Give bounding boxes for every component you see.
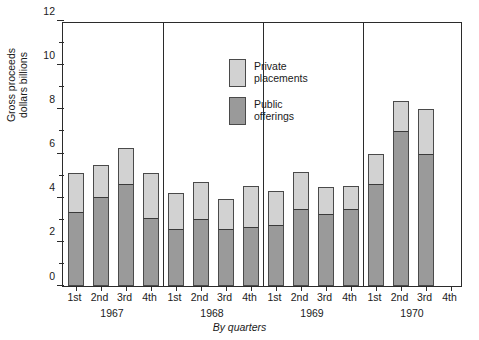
bar-1968-4th [243, 186, 259, 286]
chart-figure: Gross proceeds dollars billions 02468101… [0, 0, 479, 340]
bar-segment-public [418, 154, 434, 287]
legend-item-private: Private placements [229, 59, 308, 87]
bar-1970-2nd [393, 101, 409, 287]
bar-segment-private [168, 193, 184, 228]
bar-segment-public [143, 218, 159, 286]
bar-segment-public [168, 229, 184, 286]
x-quarter-label: 2nd [191, 292, 209, 303]
bar-1968-1st [168, 193, 184, 286]
bar-1968-3rd [218, 199, 234, 286]
bar-segment-private [368, 154, 384, 185]
y-tick-major [57, 20, 64, 21]
x-year-label-1970: 1970 [400, 308, 423, 319]
legend-label-public: Public offerings [254, 97, 294, 122]
y-axis-title: Gross proceeds dollars billions [6, 15, 29, 155]
bar-segment-private [268, 191, 284, 225]
bar-1969-1st [268, 191, 284, 286]
x-year-label-1968: 1968 [200, 308, 223, 319]
x-quarter-label: 2nd [91, 292, 109, 303]
x-quarter-label: 1st [267, 292, 281, 303]
x-axis-title: By quarters [0, 322, 479, 333]
bar-1969-3rd [318, 187, 334, 286]
bar-segment-public [218, 229, 234, 286]
bar-1969-4th [343, 186, 359, 286]
y-tick-label: 0 [49, 270, 55, 281]
x-quarter-label: 3rd [217, 292, 232, 303]
bar-1968-2nd [193, 182, 209, 286]
y-tick-label: 6 [49, 138, 55, 149]
bar-segment-private [93, 165, 109, 197]
x-quarter-label: 3rd [317, 292, 332, 303]
bar-segment-public [393, 131, 409, 286]
bar-segment-public [68, 212, 84, 286]
bar-segment-private [218, 199, 234, 229]
bar-1967-1st [68, 173, 84, 286]
bar-segment-public [193, 219, 209, 286]
bar-segment-public [93, 197, 109, 286]
bar-1967-2nd [93, 165, 109, 286]
bar-segment-public [118, 184, 134, 286]
bar-segment-public [318, 214, 334, 286]
x-quarter-label: 2nd [291, 292, 309, 303]
legend-swatch-private-icon [229, 59, 246, 87]
x-quarter-label: 4th [342, 292, 357, 303]
plot-area: 024681012 Private placements Public offe… [62, 22, 462, 287]
bar-segment-private [343, 186, 359, 209]
bar-1967-4th [143, 173, 159, 286]
x-quarter-label: 1st [67, 292, 81, 303]
x-quarter-label: 4th [442, 292, 457, 303]
bar-segment-public [293, 209, 309, 286]
y-tick-label: 4 [49, 182, 55, 193]
y-tick-label: 8 [49, 94, 55, 105]
x-quarter-label: 4th [242, 292, 257, 303]
y-tick-label: 2 [49, 226, 55, 237]
bar-segment-private [118, 148, 134, 184]
bar-segment-public [243, 227, 259, 286]
x-quarter-label: 1st [167, 292, 181, 303]
x-year-label-1969: 1969 [300, 308, 323, 319]
bar-1970-1st [368, 154, 384, 287]
bar-segment-private [68, 173, 84, 212]
bar-segment-public [343, 209, 359, 286]
bar-segment-public [268, 225, 284, 286]
x-quarter-label: 3rd [117, 292, 132, 303]
legend-swatch-public-icon [229, 97, 246, 125]
bar-segment-private [393, 101, 409, 132]
bar-segment-private [418, 109, 434, 153]
bar-segment-private [243, 186, 259, 228]
x-quarter-label: 4th [142, 292, 157, 303]
y-tick-label: 12 [43, 5, 55, 16]
legend-label-private: Private placements [254, 59, 308, 84]
bar-segment-private [318, 187, 334, 215]
bar-1967-3rd [118, 148, 134, 286]
x-quarter-label: 3rd [417, 292, 432, 303]
legend-item-public: Public offerings [229, 97, 308, 125]
bar-segment-private [143, 173, 159, 217]
bar-segment-private [193, 182, 209, 218]
bar-segment-public [368, 184, 384, 286]
x-quarter-label: 1st [367, 292, 381, 303]
chart-legend: Private placements Public offerings [229, 59, 308, 125]
bar-1970-3rd [418, 109, 434, 286]
bar-1969-2nd [293, 172, 309, 286]
bar-segment-private [293, 172, 309, 208]
x-quarter-label: 2nd [391, 292, 409, 303]
y-tick-label: 10 [43, 49, 55, 60]
x-year-label-1967: 1967 [100, 308, 123, 319]
